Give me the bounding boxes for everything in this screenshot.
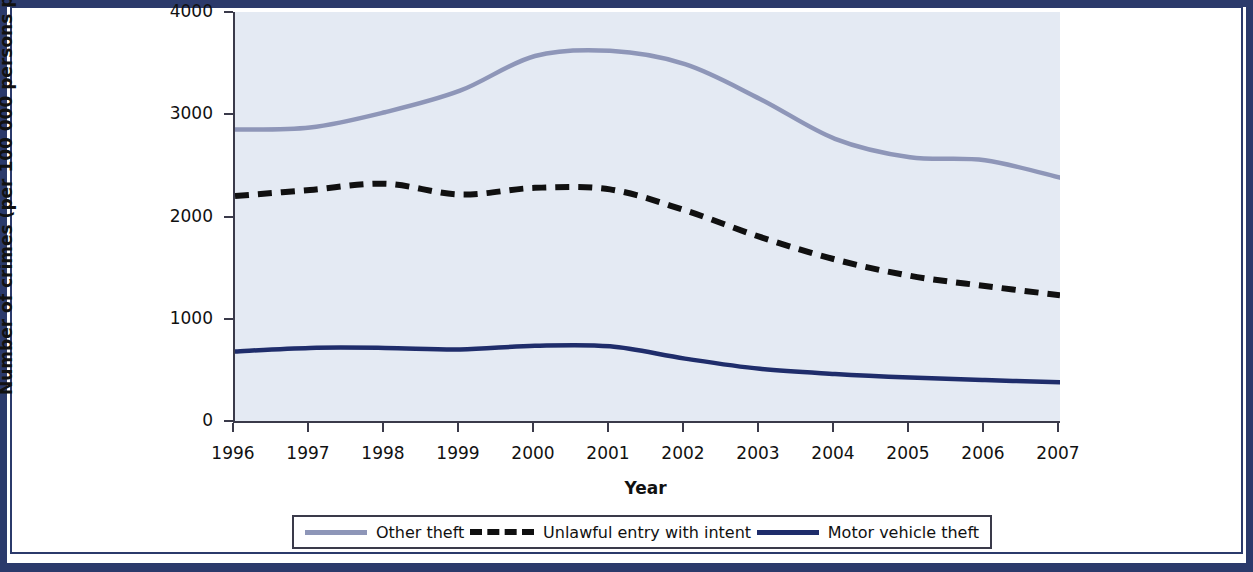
x-tick-mark <box>832 423 834 432</box>
legend-swatch-icon <box>470 529 534 535</box>
x-tick-label: 2002 <box>648 443 718 463</box>
legend-entry: Motor vehicle theft <box>757 523 979 542</box>
y-tick-mark <box>224 216 233 218</box>
figure-container: Number of crimes (per 100 000 persons pe… <box>0 0 1253 572</box>
series-line <box>235 345 1060 382</box>
legend-entry: Unlawful entry with intent <box>470 523 751 542</box>
x-tick-label: 2003 <box>723 443 793 463</box>
y-tick-label: 0 <box>103 410 213 430</box>
x-tick-mark <box>607 423 609 432</box>
y-tick-label: 4000 <box>103 1 213 21</box>
y-tick-mark <box>224 113 233 115</box>
y-tick-mark <box>224 318 233 320</box>
x-tick-mark <box>757 423 759 432</box>
legend-swatch-icon <box>757 530 819 535</box>
chart-legend: Other theftUnlawful entry with intentMot… <box>292 515 992 549</box>
y-tick-label: 3000 <box>103 103 213 123</box>
x-tick-mark <box>307 423 309 432</box>
x-tick-mark <box>907 423 909 432</box>
y-tick-mark <box>224 420 233 422</box>
y-axis-title: Number of crimes (per 100 000 persons pe… <box>0 0 16 395</box>
plot-area <box>233 12 1060 423</box>
x-tick-label: 1996 <box>198 443 268 463</box>
x-tick-label: 2000 <box>498 443 568 463</box>
figure-bottom-bar <box>0 563 1253 572</box>
x-tick-mark <box>457 423 459 432</box>
legend-swatch-icon <box>305 530 367 535</box>
y-tick-label: 2000 <box>103 206 213 226</box>
plot-svg <box>235 12 1060 421</box>
x-tick-label: 2007 <box>1023 443 1093 463</box>
x-tick-label: 2001 <box>573 443 643 463</box>
x-tick-label: 1998 <box>348 443 418 463</box>
legend-label: Motor vehicle theft <box>828 523 979 542</box>
x-tick-mark <box>532 423 534 432</box>
y-tick-label: 1000 <box>103 308 213 328</box>
x-tick-mark <box>232 423 234 432</box>
x-axis-title: Year <box>233 478 1058 498</box>
x-tick-mark <box>1057 423 1059 432</box>
x-tick-mark <box>982 423 984 432</box>
x-tick-mark <box>382 423 384 432</box>
x-tick-mark <box>682 423 684 432</box>
series-line <box>235 50 1060 178</box>
x-tick-label: 1997 <box>273 443 343 463</box>
legend-label: Unlawful entry with intent <box>543 523 751 542</box>
x-tick-label: 2004 <box>798 443 868 463</box>
legend-entry: Other theft <box>305 523 464 542</box>
legend-label: Other theft <box>376 523 464 542</box>
x-tick-label: 2006 <box>948 443 1018 463</box>
series-layer <box>235 50 1060 382</box>
y-tick-mark <box>224 11 233 13</box>
x-tick-label: 2005 <box>873 443 943 463</box>
x-tick-label: 1999 <box>423 443 493 463</box>
series-line <box>235 184 1060 296</box>
